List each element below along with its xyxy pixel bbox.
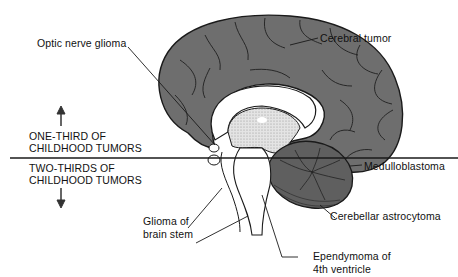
- label-two-thirds-2: CHILDHOOD TUMORS: [29, 174, 142, 186]
- label-ependymoma-1: Ependymoma of: [313, 250, 391, 262]
- ventricle-highlight: [257, 117, 267, 123]
- label-glioma-brain-stem-1: Glioma of: [143, 215, 189, 227]
- label-one-third-1: ONE-THIRD OF: [29, 130, 106, 142]
- brain-tumor-diagram: Optic nerve glioma Cerebral tumor Medull…: [0, 0, 458, 277]
- label-two-thirds-1: TWO-THIRDS OF: [29, 162, 115, 174]
- label-glioma-brain-stem-2: brain stem: [143, 228, 193, 240]
- label-cerebellar-astrocytoma: Cerebellar astrocytoma: [330, 210, 441, 222]
- arrow-down-icon: [57, 188, 65, 208]
- label-optic-nerve-glioma: Optic nerve glioma: [37, 37, 126, 49]
- optic-pituitary: [208, 144, 220, 165]
- label-cerebral-tumor: Cerebral tumor: [320, 32, 391, 44]
- label-one-third-2: CHILDHOOD TUMORS: [29, 142, 142, 154]
- label-ependymoma-2: 4th ventricle: [313, 263, 371, 275]
- label-medulloblastoma: Medulloblastoma: [364, 160, 445, 172]
- arrow-up-icon: [57, 106, 65, 126]
